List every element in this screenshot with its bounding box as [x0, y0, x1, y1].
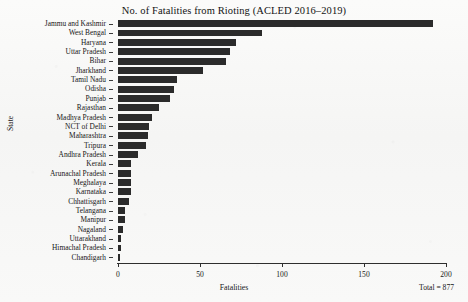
chart-page: No. of Fatalities from Rioting (ACLED 20… [0, 0, 468, 302]
bar [118, 76, 177, 83]
x-axis-tick-label: 50 [196, 270, 204, 279]
y-axis-tick-label: Uttarakhand [69, 235, 106, 242]
y-axis-tick-label: Uttar Pradesh [66, 48, 106, 55]
y-axis-tick [109, 183, 113, 184]
y-axis-tick-label: Bihar [90, 57, 106, 64]
bar [118, 95, 170, 102]
y-axis-tick-label: Manipur [81, 216, 106, 223]
bar [118, 179, 131, 186]
y-axis-tick [109, 42, 113, 43]
bar-row [118, 48, 446, 55]
y-axis-tick [109, 33, 113, 34]
y-axis-tick-label: Chandigarh [72, 254, 106, 261]
x-axis-tick [446, 263, 447, 267]
bar [118, 30, 262, 37]
bar [118, 86, 174, 93]
bar [118, 114, 152, 121]
bar-row [118, 142, 446, 149]
bar [118, 67, 203, 74]
x-axis-tick [282, 263, 283, 267]
y-axis-tick-label: NCT of Delhi [65, 123, 106, 130]
y-axis-tick [109, 211, 113, 212]
bar [118, 207, 125, 214]
bar-row [118, 235, 446, 242]
bar-row [118, 39, 446, 46]
y-axis-tick [109, 192, 113, 193]
bar [118, 132, 148, 139]
bar-row [118, 67, 446, 74]
bar-series [118, 19, 446, 262]
y-axis-tick-label: Kerala [86, 160, 106, 167]
bar [118, 160, 131, 167]
y-axis-tick [109, 24, 113, 25]
bar [118, 216, 125, 223]
bar [118, 151, 138, 158]
bar-row [118, 123, 446, 130]
y-axis-tick [109, 89, 113, 90]
bar [118, 198, 129, 205]
bar-row [118, 76, 446, 83]
y-axis-tick [109, 70, 113, 71]
x-axis-title: Fatalities [0, 283, 468, 292]
y-axis-tick [109, 117, 113, 118]
bar-row [118, 207, 446, 214]
bar-row [118, 95, 446, 102]
bar-row [118, 30, 446, 37]
x-axis-tick [118, 263, 119, 267]
y-axis-tick [109, 201, 113, 202]
bar-row [118, 245, 446, 252]
bar [118, 48, 230, 55]
y-axis-tick [109, 108, 113, 109]
bar [118, 142, 146, 149]
y-axis-tick [109, 239, 113, 240]
bar [118, 104, 159, 111]
y-axis-tick [109, 98, 113, 99]
plot-area [118, 19, 446, 262]
y-axis-tick [109, 220, 113, 221]
y-axis-tick-label: Arunachal Pradesh [50, 170, 106, 177]
y-axis-tick [109, 257, 113, 258]
bar [118, 226, 123, 233]
y-axis-tick-label: Jammu and Kashmir [45, 20, 106, 27]
bar-row [118, 132, 446, 139]
y-axis-tick [109, 229, 113, 230]
chart-title: No. of Fatalities from Rioting (ACLED 20… [0, 5, 468, 16]
y-axis-tick-label: Nagaland [78, 226, 106, 233]
y-axis-tick [109, 80, 113, 81]
y-axis-tick [109, 155, 113, 156]
bar-row [118, 188, 446, 195]
y-axis-tick [109, 136, 113, 137]
y-axis-tick-label: Meghalaya [73, 179, 106, 186]
bar [118, 20, 433, 27]
bar [118, 170, 131, 177]
bar-row [118, 198, 446, 205]
y-axis-tick-label: Maharashtra [69, 132, 106, 139]
bar [118, 39, 236, 46]
bar-row [118, 58, 446, 65]
bar [118, 123, 149, 130]
bar [118, 58, 226, 65]
bar-row [118, 151, 446, 158]
y-axis-tick [109, 173, 113, 174]
x-axis-tick-label: 100 [276, 270, 287, 279]
y-axis-labels: Jammu and KashmirWest BengalHaryanaUttar… [0, 19, 113, 262]
y-axis-tick-label: Jharkhand [76, 67, 106, 74]
bar-row [118, 170, 446, 177]
y-axis-tick [109, 248, 113, 249]
y-axis-tick-label: Tamil Nadu [71, 76, 106, 83]
y-axis-tick-label: West Bengal [69, 29, 106, 36]
y-axis-tick-label: Telangana [76, 207, 106, 214]
bar-row [118, 86, 446, 93]
x-axis-tick-label: 150 [358, 270, 369, 279]
y-axis-tick-label: Haryana [81, 39, 106, 46]
bar-row [118, 179, 446, 186]
y-axis-tick-label: Himachal Pradesh [52, 244, 106, 251]
bar-row [118, 20, 446, 27]
x-axis-tick-label: 200 [440, 270, 451, 279]
bar [118, 188, 131, 195]
y-axis-tick [109, 126, 113, 127]
x-axis-tick [364, 263, 365, 267]
y-axis-tick-label: Punjab [85, 95, 106, 102]
y-axis-tick-label: Karnataka [76, 188, 106, 195]
bar-row [118, 226, 446, 233]
